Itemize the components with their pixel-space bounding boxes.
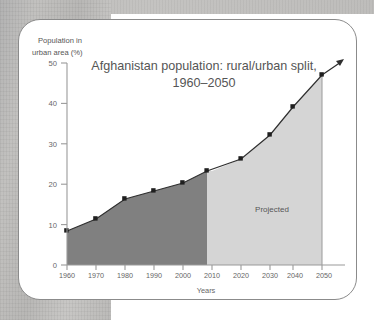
y-tick-label-40: 40 [49,99,57,108]
y-axis-ticks [61,63,67,265]
projected-area [207,75,322,265]
x-tick-label-1980: 1980 [117,271,133,280]
observed-area [67,171,207,265]
y-tick-label-30: 30 [49,140,57,149]
y-tick-label-20: 20 [49,180,57,189]
y-tick-label-0: 0 [53,261,57,270]
x-tick-label-1960: 1960 [59,271,75,280]
projected-annotation: Projected [255,205,289,214]
y-tick-label-50: 50 [49,59,57,68]
y-axis-label-line1: Population in [38,36,82,45]
x-tick-label-2020: 2020 [233,271,249,280]
x-tick-label-1970: 1970 [88,271,104,280]
x-tick-label-2030: 2030 [262,271,278,280]
chart-title-line2: 1960–2050 [172,76,235,90]
x-axis-ticks [67,265,322,270]
chart-area: 0 10 20 30 40 50 1960 1970 1980 1990 200… [0,0,374,320]
x-tick-label-1990: 1990 [146,271,162,280]
x-tick-label-2050: 2050 [316,271,332,280]
y-tick-label-10: 10 [49,221,57,230]
x-axis-title: Years [197,286,216,295]
x-tick-label-2000: 2000 [175,271,191,280]
chart-title-line1: Afghanistan population: rural/urban spli… [91,59,316,73]
y-axis-label-line2: urban area (%) [32,48,83,57]
x-tick-label-2040: 2040 [287,271,303,280]
figure-page: 0 10 20 30 40 50 1960 1970 1980 1990 200… [0,0,374,320]
x-tick-label-2010: 2010 [204,271,220,280]
